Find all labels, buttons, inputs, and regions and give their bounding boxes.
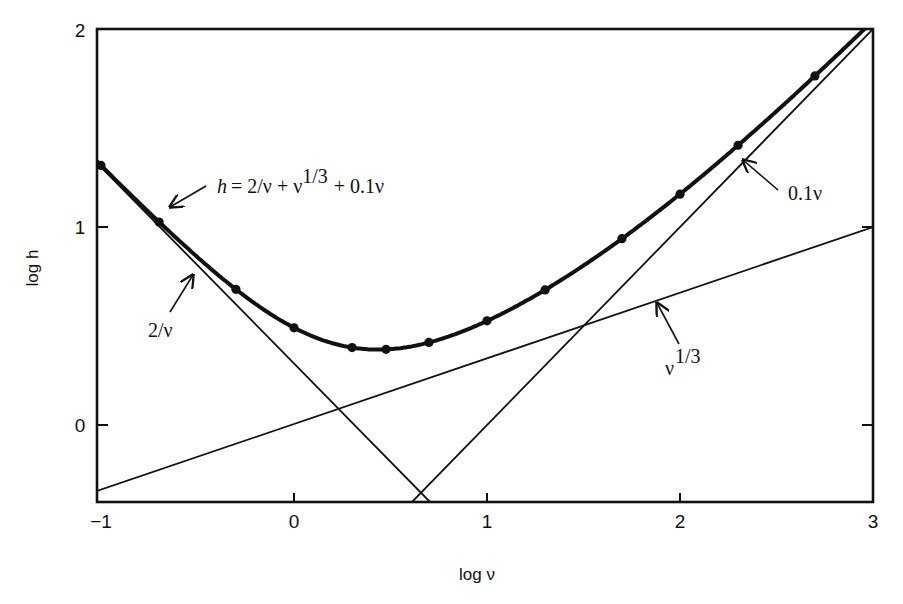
data-point-marker (231, 285, 240, 294)
total-curve (97, 21, 873, 350)
plot-frame (97, 29, 873, 502)
annotation-0-1-nu: 0.1ν (743, 160, 822, 204)
annotation-2-over-nu: 2/ν (148, 275, 193, 341)
y-tick-label: 1 (75, 217, 86, 238)
y-axis-ticks (97, 227, 873, 425)
label-0-1-nu: 0.1ν (788, 182, 822, 204)
y-tick-label: 0 (75, 415, 86, 436)
data-point-marker (347, 343, 356, 352)
x-tick-label: 2 (675, 511, 686, 532)
label-2-over-nu: 2/ν (148, 319, 173, 341)
data-point-marker (289, 323, 298, 332)
x-tick-label: 1 (482, 511, 493, 532)
data-point-marker (617, 234, 626, 243)
annotation-total: h= 2/ν + ν1/3+ 0.1ν (170, 165, 384, 207)
y-tick-labels: 0 1 2 (75, 20, 86, 436)
data-point-marker (482, 316, 491, 325)
line-0-1-nu (412, 29, 873, 502)
x-axis-ticks (294, 493, 680, 502)
data-point-marker (733, 141, 742, 150)
arrow-0-1-nu (743, 160, 778, 190)
data-point-marker (540, 285, 549, 294)
y-axis-label: log h (23, 250, 42, 287)
x-tick-label: −1 (90, 511, 112, 532)
line-nu-cube-root (97, 227, 873, 491)
chart: −1 0 1 2 3 0 1 2 log ν log h h= 2/ν + ν1… (0, 0, 903, 604)
arrow-total (170, 186, 206, 207)
x-tick-labels: −1 0 1 2 3 (90, 511, 878, 532)
data-point-marker (810, 71, 819, 80)
data-point-marker (96, 161, 105, 170)
data-point-marker (154, 217, 163, 226)
formula-label: h= 2/ν + ν1/3+ 0.1ν (217, 165, 384, 197)
x-axis-label: log ν (459, 565, 495, 584)
arrow-nu-cube-root (657, 303, 679, 344)
data-point-marker (381, 345, 390, 354)
y-tick-label: 2 (75, 20, 86, 41)
label-nu-cube-root: ν1/3 (665, 345, 701, 379)
annotation-nu-cube-root: ν1/3 (657, 303, 701, 379)
arrow-2-over-nu (170, 275, 193, 312)
total-curve-markers (96, 71, 819, 354)
x-tick-label: 3 (868, 511, 879, 532)
data-point-marker (424, 338, 433, 347)
x-tick-label: 0 (289, 511, 300, 532)
data-point-marker (675, 190, 684, 199)
